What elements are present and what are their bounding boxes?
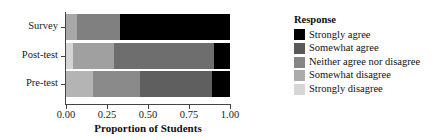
bar-segment: [212, 71, 230, 97]
bar-segment: [93, 71, 140, 97]
bar-segment: [77, 14, 120, 40]
x-tick-label-0.25: 0.25: [98, 110, 116, 121]
legend-label: Strongly agree: [309, 30, 371, 41]
legend-label: Strongly disagree: [309, 84, 383, 95]
y-tick-label-post-test: Post-test: [0, 50, 58, 61]
x-axis-title: Proportion of Students: [66, 123, 230, 134]
x-tick-label-1.00: 1.00: [221, 110, 239, 121]
y-tick-mark: [61, 27, 65, 28]
legend-item[interactable]: Somewhat disagree: [294, 69, 434, 83]
x-tick-label-0.00: 0.00: [57, 110, 75, 121]
legend-swatch-icon: [294, 43, 305, 54]
y-tick-label-pre-test: Pre-test: [0, 78, 58, 89]
legend-label: Neither agree nor disagree: [309, 57, 420, 68]
legend-item[interactable]: Somewhat agree: [294, 42, 434, 56]
legend: Response Strongly agreeSomewhat agreeNei…: [294, 14, 434, 96]
stacked-bar-chart-figure: SurveyPost-testPre-test 0.000.250.500.75…: [0, 0, 435, 140]
legend-title: Response: [294, 14, 434, 26]
bar-segment: [66, 71, 93, 97]
legend-items: Strongly agreeSomewhat agreeNeither agre…: [294, 28, 434, 96]
legend-item[interactable]: Strongly disagree: [294, 82, 434, 96]
bar-survey: [66, 14, 230, 40]
bar-pre-test: [66, 71, 230, 97]
legend-swatch-icon: [294, 57, 305, 68]
bar-segment: [120, 14, 230, 40]
bar-segment: [73, 43, 113, 69]
bar-post-test: [66, 43, 230, 69]
y-tick-label-survey: Survey: [0, 21, 58, 32]
y-tick-mark: [61, 84, 65, 85]
legend-item[interactable]: Neither agree nor disagree: [294, 55, 434, 69]
bar-segment: [66, 14, 77, 40]
bar-segment: [114, 43, 214, 69]
legend-swatch-icon: [294, 84, 305, 95]
x-tick-label-0.75: 0.75: [180, 110, 198, 121]
x-tick-label-0.50: 0.50: [139, 110, 157, 121]
legend-item[interactable]: Strongly agree: [294, 28, 434, 42]
bar-segment: [214, 43, 230, 69]
y-tick-mark: [61, 56, 65, 57]
bar-segment: [66, 43, 73, 69]
legend-label: Somewhat disagree: [309, 70, 391, 81]
bar-segment: [140, 71, 212, 97]
legend-swatch-icon: [294, 70, 305, 81]
legend-label: Somewhat agree: [309, 43, 379, 54]
legend-swatch-icon: [294, 29, 305, 40]
